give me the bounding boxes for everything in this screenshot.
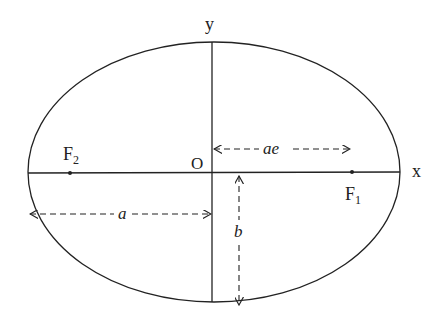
y-axis-label: y [205,14,214,34]
ae-label: ae [263,139,280,158]
focus-f1-subscript: 1 [355,193,361,207]
focus-f2-point [68,171,72,175]
x-axis [28,172,400,173]
focus-f2-subscript: 2 [73,153,79,167]
focus-f1-point [350,170,354,174]
focus-f2-label: F2 [63,144,79,167]
a-label: a [118,204,127,223]
focus-f2-letter: F [63,144,73,164]
focus-f1-label: F1 [345,184,361,207]
focus-f1-letter: F [345,184,355,204]
origin-label: O [191,154,203,173]
b-label: b [234,222,243,241]
ellipse-diagram: y x O F2 F1 ae a b [0,0,441,324]
x-axis-label: x [412,161,421,181]
